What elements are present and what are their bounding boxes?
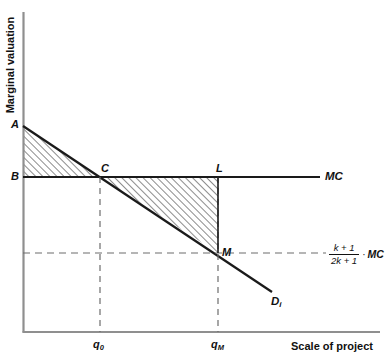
figure-container: Marginal valuation Scale of project A B …	[0, 0, 389, 363]
fraction-numerator: k + 1	[332, 243, 357, 254]
x-axis-title: Scale of project	[291, 341, 373, 352]
x-tick-q0-main: q	[93, 338, 100, 350]
x-tick-label-qm: qM	[211, 339, 224, 350]
point-label-l: L	[216, 163, 223, 174]
point-label-a: A	[11, 119, 19, 130]
demand-curve-label: Di	[271, 296, 282, 308]
mc-curve-label: MC	[325, 171, 343, 183]
fraction-mc-term: MC	[368, 248, 384, 260]
reduced-mc-annotation: k + 1 2k + 1 · MC	[329, 243, 384, 266]
point-label-b: B	[11, 171, 19, 182]
x-tick-label-q0: q0	[93, 339, 104, 350]
x-tick-qm-sub: M	[218, 343, 224, 352]
fraction-denominator: 2k + 1	[329, 255, 359, 266]
y-axis-title: Marginal valuation	[2, 10, 18, 120]
fraction-operator: ·	[362, 249, 365, 260]
reduced-mc-fraction: k + 1 2k + 1	[329, 243, 359, 266]
point-label-m: M	[222, 247, 231, 258]
x-tick-q0-sub: 0	[100, 343, 104, 352]
x-tick-qm-main: q	[211, 338, 218, 350]
y-axis-title-text: Marginal valuation	[5, 17, 16, 114]
demand-curve-label-sub: i	[279, 300, 281, 309]
demand-curve-line	[23, 126, 272, 292]
point-label-c: C	[101, 163, 109, 174]
